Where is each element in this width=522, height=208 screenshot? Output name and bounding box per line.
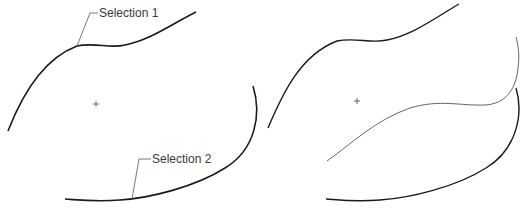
- diagram-canvas: [0, 0, 522, 208]
- result-curve-1[interactable]: [268, 4, 459, 128]
- leader-selection-1: [77, 13, 98, 46]
- curve-selection-2[interactable]: [65, 86, 257, 201]
- label-selection-2: Selection 2: [152, 153, 211, 165]
- leader-selection-2: [132, 159, 151, 199]
- origin-marker-icon: [354, 98, 360, 104]
- label-selection-1: Selection 1: [99, 7, 158, 19]
- origin-marker-icon: [93, 101, 99, 107]
- curve-selection-1[interactable]: [8, 12, 196, 131]
- result-blend-curve[interactable]: [327, 37, 519, 161]
